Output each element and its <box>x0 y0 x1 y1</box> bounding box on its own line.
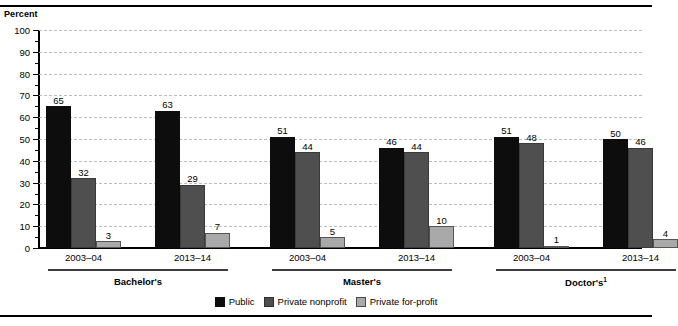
bar-value-label: 46 <box>386 137 397 147</box>
y-axis-minor-tick <box>35 85 38 86</box>
gridline <box>39 183 642 184</box>
legend-item-forprofit[interactable]: Private for-profit <box>356 296 438 307</box>
y-axis-minor-tick <box>35 237 38 238</box>
bar-public: 46 <box>379 148 404 248</box>
bar-public: 50 <box>603 139 628 248</box>
legend-label: Private for-profit <box>370 296 438 307</box>
group-bracket-rule <box>272 269 452 271</box>
legend-item-nonprofit[interactable]: Private nonprofit <box>264 296 347 307</box>
chart-plot-area: 0102030405060708090100 65323632975144546… <box>38 30 642 248</box>
gridline <box>39 95 642 96</box>
gridline <box>39 30 642 31</box>
legend-swatch-nonprofit <box>264 297 274 307</box>
bar-forprofit: 7 <box>205 233 230 248</box>
y-axis-title: Percent <box>4 9 38 19</box>
bar-value-label: 51 <box>277 126 288 136</box>
bar-value-label: 1 <box>554 235 559 245</box>
y-axis-tick-label: 0 <box>25 243 30 254</box>
bar-value-label: 29 <box>187 174 198 184</box>
y-axis-tick-label: 30 <box>19 177 30 188</box>
bar-value-label: 44 <box>302 142 313 152</box>
group-label-doctors: Doctor's1 <box>565 276 607 288</box>
bar-value-label: 4 <box>663 229 668 239</box>
bar-value-label: 65 <box>53 96 64 106</box>
bottom-divider-rule <box>0 315 652 317</box>
y-axis-tick <box>33 248 38 249</box>
bar-nonprofit: 44 <box>404 152 429 248</box>
y-axis-tick-label: 70 <box>19 90 30 101</box>
bar-nonprofit: 29 <box>180 185 205 248</box>
y-axis-tick <box>33 52 38 53</box>
bar-nonprofit: 48 <box>519 143 544 248</box>
y-axis-tick-label: 40 <box>19 155 30 166</box>
x-axis-year-label: 2013–14 <box>622 252 659 263</box>
group-bracket-rule <box>48 269 228 271</box>
y-axis-tick-label: 60 <box>19 112 30 123</box>
bar-value-label: 50 <box>610 129 621 139</box>
x-axis-year-label: 2003–04 <box>513 252 550 263</box>
legend-swatch-forprofit <box>356 297 366 307</box>
gridline <box>39 74 642 75</box>
top-divider-rule <box>0 5 652 7</box>
bar-forprofit: 3 <box>96 241 121 248</box>
y-axis-tick <box>33 204 38 205</box>
bar-forprofit: 1 <box>544 246 569 248</box>
bar-value-label: 32 <box>78 168 89 178</box>
gridline <box>39 161 642 162</box>
chart-legend: PublicPrivate nonprofitPrivate for-profi… <box>0 296 652 307</box>
group-label-masters: Master's <box>343 276 381 287</box>
y-axis-minor-tick <box>35 172 38 173</box>
bar-value-label: 3 <box>106 231 111 241</box>
gridline <box>39 117 642 118</box>
bar-public: 63 <box>155 111 180 248</box>
bar-forprofit: 10 <box>429 226 454 248</box>
y-axis-tick-label: 100 <box>14 25 30 36</box>
x-axis-year-label: 2013–14 <box>398 252 435 263</box>
y-axis-minor-tick <box>35 150 38 151</box>
clipped-header-text <box>0 0 652 1</box>
y-axis-minor-tick <box>35 41 38 42</box>
y-axis-minor-tick <box>35 128 38 129</box>
bar-value-label: 46 <box>635 137 646 147</box>
x-axis-year-label: 2003–04 <box>289 252 326 263</box>
gridline <box>39 52 642 53</box>
y-axis-tick <box>33 161 38 162</box>
bar-value-label: 51 <box>501 126 512 136</box>
y-axis-minor-tick <box>35 63 38 64</box>
bar-value-label: 63 <box>162 100 173 110</box>
y-axis-tick <box>33 30 38 31</box>
bar-nonprofit: 46 <box>628 148 653 248</box>
y-axis-tick <box>33 139 38 140</box>
y-axis-tick <box>33 117 38 118</box>
y-axis-tick <box>33 226 38 227</box>
bar-value-label: 7 <box>215 222 220 232</box>
y-axis-tick-label: 50 <box>19 134 30 145</box>
bar-value-label: 5 <box>330 227 335 237</box>
gridline <box>39 139 642 140</box>
bar-public: 65 <box>46 106 71 248</box>
y-axis-minor-tick <box>35 215 38 216</box>
y-axis-minor-tick <box>35 106 38 107</box>
group-label-bachelors: Bachelor's <box>114 276 162 287</box>
bar-forprofit: 5 <box>320 237 345 248</box>
y-axis-tick-label: 80 <box>19 68 30 79</box>
bar-value-label: 48 <box>526 133 537 143</box>
bar-public: 51 <box>270 137 295 248</box>
y-axis-tick-label: 20 <box>19 199 30 210</box>
legend-item-public[interactable]: Public <box>215 296 255 307</box>
y-axis-tick-label: 10 <box>19 221 30 232</box>
y-axis-tick <box>33 74 38 75</box>
y-axis-minor-tick <box>35 194 38 195</box>
x-axis-year-label: 2003–04 <box>65 252 102 263</box>
y-axis-tick <box>33 183 38 184</box>
bar-forprofit: 4 <box>653 239 678 248</box>
legend-swatch-public <box>215 297 225 307</box>
bar-nonprofit: 44 <box>295 152 320 248</box>
gridline <box>39 204 642 205</box>
legend-label: Public <box>229 296 255 307</box>
group-bracket-rule <box>496 269 676 271</box>
x-axis-year-label: 2013–14 <box>174 252 211 263</box>
y-axis-tick-label: 90 <box>19 46 30 57</box>
bar-value-label: 44 <box>411 142 422 152</box>
footnote-marker: 1 <box>603 276 607 283</box>
